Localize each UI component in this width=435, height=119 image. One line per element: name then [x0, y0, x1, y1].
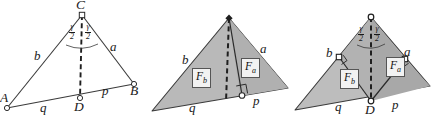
- panel3-seg-p-label: p: [392, 98, 399, 111]
- panel1-angle-right-denominator: 2: [85, 33, 91, 41]
- panel2-area-fb-sub: b: [203, 76, 207, 85]
- panel3-angle-left-numerator: γ: [358, 25, 364, 33]
- panel3-area-fa-label: Fa: [386, 57, 405, 77]
- foot-on-b-marker: [336, 54, 341, 59]
- panel3-angle-right-denominator: 2: [374, 35, 380, 43]
- panel3-area-fb-label: Fb: [340, 69, 359, 89]
- panel1-vertex-b-label: B: [130, 84, 138, 98]
- panel1-angle-left-fraction: γ 2: [69, 23, 75, 41]
- panel1-side-a-label: a: [110, 40, 117, 53]
- panel-2-shaded: [152, 15, 288, 112]
- panel2-side-a-label: a: [260, 42, 267, 55]
- panel3-angle-left-denominator: 2: [358, 35, 364, 43]
- geometry-figure: C A B D b a q p γ 2 γ 2 b a q p Fb Fa b …: [0, 0, 435, 119]
- panel3-seg-q-label: q: [335, 100, 342, 113]
- panel1-side-b-label: b: [34, 49, 41, 62]
- panel1-angle-right-fraction: γ 2: [85, 23, 91, 41]
- panel2-area-fa-label: Fa: [241, 58, 260, 78]
- panel2-area-fa-main: F: [245, 60, 252, 72]
- panel1-vertex-d-label: D: [74, 100, 84, 114]
- panel3-side-b-label: b: [326, 46, 333, 59]
- vertex-c-marker: [79, 12, 84, 17]
- panel2-seg-q-label: q: [189, 101, 196, 114]
- angle-arc-at-c: [66, 44, 98, 48]
- panel3-angle-right-numerator: γ: [374, 25, 380, 33]
- panel3-vertex-d-label: D: [365, 103, 375, 117]
- panel3-area-fa-sub: a: [397, 65, 401, 74]
- base-line-ab: [7, 84, 134, 108]
- apex-marker: [368, 14, 374, 20]
- panel2-seg-p-label: p: [253, 94, 260, 107]
- panel1-angle-right-numerator: γ: [85, 23, 91, 31]
- panel1-vertex-c-label: C: [76, 0, 85, 12]
- panel1-seg-p-label: p: [102, 84, 109, 97]
- panel1-seg-q-label: q: [40, 101, 47, 114]
- panel1-vertex-a-label: A: [0, 91, 8, 105]
- panel3-area-fa-main: F: [390, 59, 397, 71]
- panel2-side-b-label: b: [182, 53, 189, 66]
- panel3-area-fb-sub: b: [351, 77, 355, 86]
- panel1-angle-left-numerator: γ: [69, 23, 75, 31]
- panel1-angle-left-denominator: 2: [69, 33, 75, 41]
- cevian-cd-dashed: [80, 15, 82, 98]
- panel3-area-fb-main: F: [344, 71, 351, 83]
- vertex-a-marker: [4, 105, 9, 110]
- panel2-area-fa-sub: a: [252, 66, 256, 75]
- panel2-area-fb-main: F: [196, 70, 203, 82]
- panel2-area-fb-label: Fb: [192, 68, 211, 88]
- altitude-foot-marker: [239, 93, 245, 99]
- panel3-angle-left-fraction: γ 2: [358, 25, 364, 43]
- panel3-angle-right-fraction: γ 2: [374, 25, 380, 43]
